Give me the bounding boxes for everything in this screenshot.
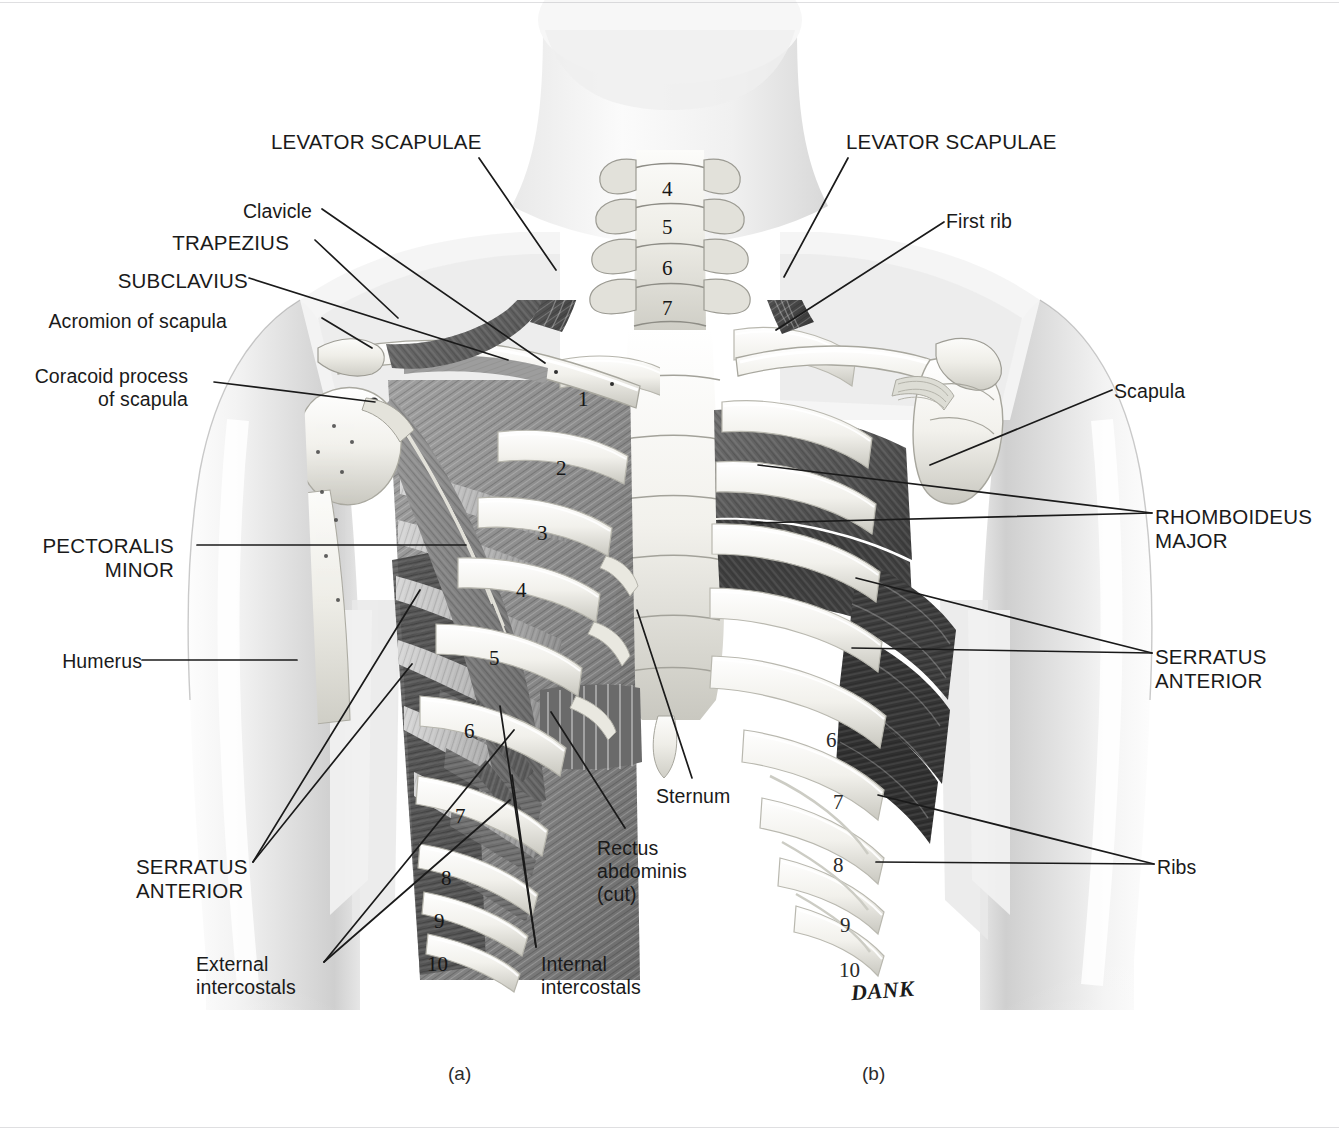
label-external-intercostals: External intercostals xyxy=(196,953,296,999)
label-coracoid-process-of-scapula: Coracoid process of scapula xyxy=(0,365,188,411)
label-internal-intercostals: Internal intercostals xyxy=(541,953,641,999)
anatomy-figure-page: LEVATOR SCAPULAELEVATOR SCAPULAEClavicle… xyxy=(0,0,1339,1130)
label-levator-scapulae-right: LEVATOR SCAPULAE xyxy=(846,130,1057,154)
rib_numbers_right-8: 8 xyxy=(833,853,844,878)
rib_numbers_left-4: 4 xyxy=(516,578,527,603)
artist-signature: DANK xyxy=(850,976,915,1006)
label-rectus-abdominis-cut: Rectus abdominis (cut) xyxy=(597,837,687,906)
label-levator-scapulae-left: LEVATOR SCAPULAE xyxy=(271,130,482,154)
label-clavicle: Clavicle xyxy=(0,200,312,223)
scan-artifact-bottom xyxy=(0,1127,1339,1128)
rib_numbers_left-8: 8 xyxy=(441,866,452,891)
rib_numbers_right-7: 7 xyxy=(833,790,844,815)
label-humerus: Humerus xyxy=(0,650,142,673)
label-pectoralis-minor: PECTORALIS MINOR xyxy=(0,534,174,582)
rib_numbers_right-9: 9 xyxy=(840,913,851,938)
label-scapula: Scapula xyxy=(1114,380,1185,403)
figure-caption-b: (b) xyxy=(862,1063,885,1085)
rib_numbers_right-6: 6 xyxy=(826,728,837,753)
rib_numbers_left-6: 6 xyxy=(464,719,475,744)
rib_numbers_left-3: 3 xyxy=(537,521,548,546)
vertebra_numbers-5: 5 xyxy=(662,215,673,240)
vertebra_numbers-4: 4 xyxy=(662,177,673,202)
label-ribs: Ribs xyxy=(1157,856,1196,879)
scan-artifact-top xyxy=(0,2,1339,3)
label-serratus-anterior-right: SERRATUS ANTERIOR xyxy=(1155,645,1267,693)
rib_numbers_left-2: 2 xyxy=(556,456,567,481)
figure-caption-a: (a) xyxy=(448,1063,471,1085)
label-trapezius: TRAPEZIUS xyxy=(0,231,289,255)
label-subclavius: SUBCLAVIUS xyxy=(0,269,248,293)
label-first-rib: First rib xyxy=(946,210,1012,233)
label-sternum: Sternum xyxy=(656,785,730,808)
vertebra_numbers-7: 7 xyxy=(662,296,673,321)
rib_numbers_left-7: 7 xyxy=(455,804,466,829)
rib_numbers_left-10: 10 xyxy=(427,952,448,977)
label-rhomboideus-major: RHOMBOIDEUS MAJOR xyxy=(1155,505,1312,553)
rib_numbers_left-1: 1 xyxy=(578,387,589,412)
vertebra_numbers-6: 6 xyxy=(662,256,673,281)
rib_numbers_left-9: 9 xyxy=(434,909,445,934)
label-serratus-anterior-left: SERRATUS ANTERIOR xyxy=(136,855,248,903)
label-acromion-of-scapula: Acromion of scapula xyxy=(0,310,227,333)
rib_numbers_left-5: 5 xyxy=(489,646,500,671)
